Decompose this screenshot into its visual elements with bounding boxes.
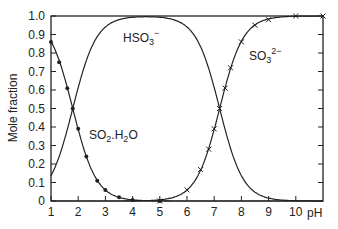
curves: [51, 16, 323, 201]
series-label-so3: SO32−: [249, 46, 282, 65]
markers: [49, 14, 326, 204]
speciation-chart: 1234567891000.10.20.30.40.50.60.70.80.91…: [0, 0, 338, 229]
axes: 1234567891000.10.20.30.40.50.60.70.80.91…: [28, 9, 323, 219]
data-point-dot: [103, 188, 107, 192]
plot-frame: [51, 16, 323, 201]
curve-so2h2o: [51, 41, 323, 201]
y-tick-label: 0.6: [28, 83, 45, 97]
data-point-dot: [71, 107, 75, 111]
x-tick-label: 9: [265, 205, 272, 219]
data-point-dot: [76, 127, 80, 131]
data-point-dot: [65, 86, 69, 90]
y-tick-label: 0: [38, 194, 45, 208]
y-tick-label: 0.7: [28, 65, 45, 79]
y-tick-label: 0.5: [28, 102, 45, 116]
x-axis-label: pH: [307, 206, 322, 220]
chart-canvas: 1234567891000.10.20.30.40.50.60.70.80.91…: [0, 0, 338, 229]
y-tick-label: 0.8: [28, 46, 45, 60]
x-tick-label: 7: [211, 205, 218, 219]
x-tick-label: 5: [156, 205, 163, 219]
series-label-so2h2o: SO2.H2O: [89, 128, 138, 144]
y-tick-label: 0.4: [28, 120, 45, 134]
x-tick-label: 4: [129, 205, 136, 219]
y-tick-label: 1.0: [28, 9, 45, 23]
data-point-dot: [49, 40, 53, 44]
curve-hso3: [51, 17, 323, 201]
data-point-dot: [131, 198, 135, 202]
x-tick-label: 10: [289, 205, 303, 219]
data-point-dot: [57, 60, 61, 64]
y-axis-label: Mole fraction: [6, 74, 20, 143]
x-tick-label: 3: [102, 205, 109, 219]
x-tick-label: 6: [184, 205, 191, 219]
y-tick-label: 0.9: [28, 28, 45, 42]
data-point-cross: [185, 187, 190, 192]
y-tick-label: 0.2: [28, 157, 45, 171]
curve-so3: [51, 16, 323, 201]
data-point-dot: [117, 195, 121, 199]
data-point-cross: [253, 23, 258, 28]
y-tick-label: 0.1: [28, 176, 45, 190]
data-point-dot: [95, 179, 99, 183]
x-tick-label: 8: [238, 205, 245, 219]
x-tick-label: 2: [75, 205, 82, 219]
x-tick-label: 1: [48, 205, 55, 219]
series-label-hso3: HSO3−: [123, 28, 159, 47]
data-point-dot: [84, 155, 88, 159]
y-tick-label: 0.3: [28, 139, 45, 153]
